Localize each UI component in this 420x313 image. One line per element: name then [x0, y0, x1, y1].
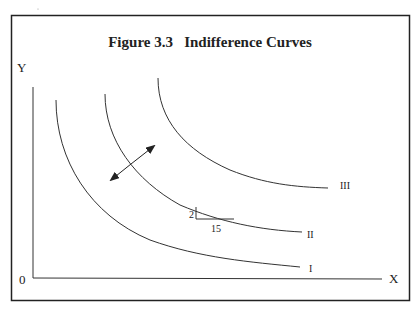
scan-speck: [37, 8, 38, 9]
curve-label-ii: II: [307, 229, 314, 240]
slope-rise-label: 2: [189, 209, 194, 220]
indifference-curve-i: [56, 100, 300, 267]
curve-label-iii: III: [340, 180, 350, 191]
slope-run-label: 15: [211, 223, 221, 234]
curve-label-i: I: [309, 263, 312, 274]
y-axis-label: Y: [17, 60, 27, 75]
utility-direction-arrow-lower: [111, 164, 131, 180]
x-axis-label: X: [389, 271, 399, 286]
figure-title: Figure 3.3 Indifference Curves: [108, 34, 312, 50]
indifference-curve-ii: [105, 94, 302, 232]
origin-label: 0: [19, 272, 26, 287]
utility-direction-arrow: [131, 146, 154, 164]
diagram-canvas: Figure 3.3 Indifference Curves Y X 0 I I…: [0, 0, 420, 313]
indifference-curve-iii: [158, 78, 328, 188]
x-axis: [33, 278, 382, 279]
figure-frame: [12, 16, 410, 301]
